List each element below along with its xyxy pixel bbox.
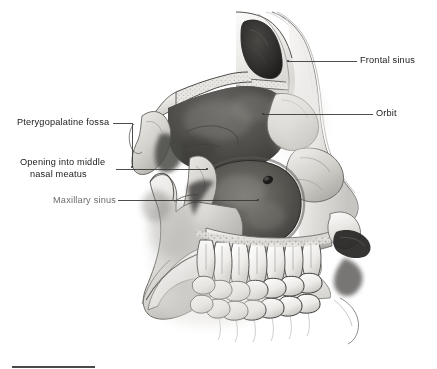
label-meatus-line-1: Opening into middle (20, 157, 128, 169)
label-meatus-line-2: nasal meatus (30, 169, 128, 181)
label-maxillary-sinus: Maxillary sinus (53, 195, 116, 207)
label-opening-into-middle-nasal-meatus: Opening into middle nasal meatus (20, 157, 128, 180)
scale-bar (12, 366, 95, 368)
label-pterygopalatine-fossa: Pterygopalatine fossa (17, 117, 109, 129)
anatomy-figure: Frontal sinus Orbit Pterygopalatine foss… (0, 0, 437, 369)
label-orbit: Orbit (376, 108, 397, 120)
label-frontal-sinus: Frontal sinus (360, 55, 415, 67)
